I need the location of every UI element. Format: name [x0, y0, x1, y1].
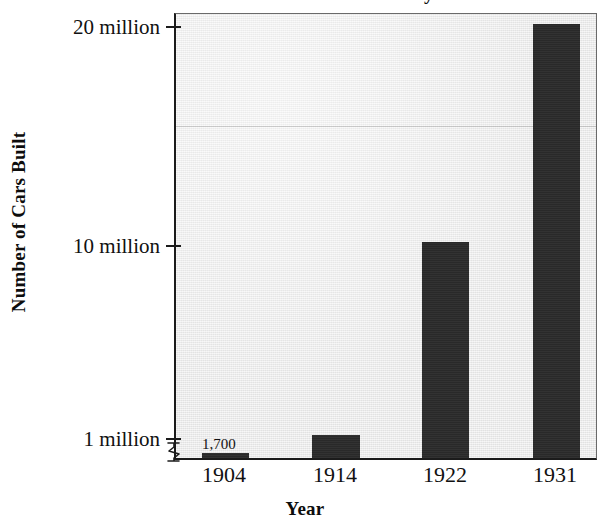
- x-axis-title: Year: [0, 498, 610, 520]
- bar-1922: [422, 242, 469, 458]
- bar-1914: [312, 435, 360, 458]
- bar-1931: [533, 24, 580, 458]
- y-tick-label-1-million: 1 million: [0, 429, 160, 450]
- chart-title: Number of Cars Built in the U.S. by Year: [0, 0, 610, 5]
- bar-1904-value-label: 1,700: [202, 437, 236, 452]
- x-tick-label-1931: 1931: [500, 464, 610, 486]
- x-tick-label-1904: 1904: [169, 464, 279, 486]
- y-axis-title-wrapper: Number of Cars Built: [8, 57, 32, 387]
- x-tick-label-1914: 1914: [280, 464, 390, 486]
- x-tick-label-1922: 1922: [390, 464, 500, 486]
- chart-title-clipped: Number of Cars Built in the U.S. by Year: [0, 0, 610, 9]
- y-tick-mark-1-million: [166, 438, 181, 440]
- y-axis-break-icon: [165, 441, 187, 463]
- y-tick-mark-10-million: [166, 245, 181, 247]
- bar-chart: Number of Cars Built in the U.S. by Year…: [0, 0, 610, 528]
- plot-area: [174, 13, 597, 460]
- bar-1904: [202, 453, 249, 458]
- y-axis-title: Number of Cars Built: [8, 57, 30, 387]
- y-tick-label-20-million: 20 million: [0, 17, 160, 38]
- y-tick-mark-20-million: [166, 26, 181, 28]
